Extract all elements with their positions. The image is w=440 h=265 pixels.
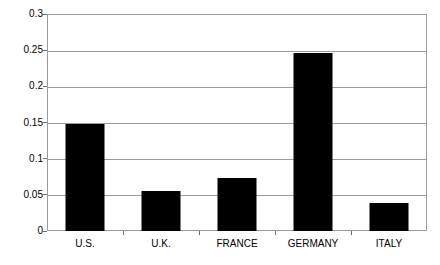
bar	[218, 178, 257, 231]
bar-slot	[275, 14, 351, 231]
bar	[294, 53, 333, 231]
bar-slot	[199, 14, 275, 231]
bar-chart: 00.050.10.150.20.250.3 U.S.U.K.FRANCEGER…	[0, 0, 440, 265]
bar	[66, 124, 105, 231]
y-tick-label: 0.05	[3, 190, 43, 200]
x-tick-label: U.K.	[151, 237, 170, 250]
x-tick-label: FRANCE	[216, 237, 257, 250]
x-tick-mark	[199, 231, 200, 235]
x-tick-mark	[351, 231, 352, 235]
x-tick-label: U.S.	[75, 237, 94, 250]
bar	[142, 191, 181, 231]
x-tick-label: ITALY	[376, 237, 402, 250]
x-tick-mark	[123, 231, 124, 235]
y-tick-mark	[43, 14, 47, 15]
bar-slot	[123, 14, 199, 231]
y-tick-label: 0.3	[3, 9, 43, 19]
bar	[370, 203, 409, 231]
x-axis-labels: U.S.U.K.FRANCEGERMANYITALY	[47, 237, 427, 253]
x-tick-mark	[275, 231, 276, 235]
bar-slot	[47, 14, 123, 231]
x-axis-ticks	[47, 231, 427, 236]
x-tick-label: GERMANY	[288, 237, 339, 250]
y-tick-mark	[43, 50, 47, 51]
y-tick-mark	[43, 194, 47, 195]
y-tick-label: 0.15	[3, 118, 43, 128]
y-tick-mark	[43, 122, 47, 123]
bars-layer	[47, 14, 427, 231]
y-tick-label: 0.1	[3, 154, 43, 164]
y-tick-mark	[43, 231, 47, 232]
y-tick-label: 0.2	[3, 81, 43, 91]
y-tick-label: 0.25	[3, 45, 43, 55]
bar-slot	[351, 14, 427, 231]
y-tick-label: 0	[3, 226, 43, 236]
y-axis: 00.050.10.150.20.250.3	[0, 0, 43, 265]
y-tick-mark	[43, 158, 47, 159]
y-tick-mark	[43, 86, 47, 87]
